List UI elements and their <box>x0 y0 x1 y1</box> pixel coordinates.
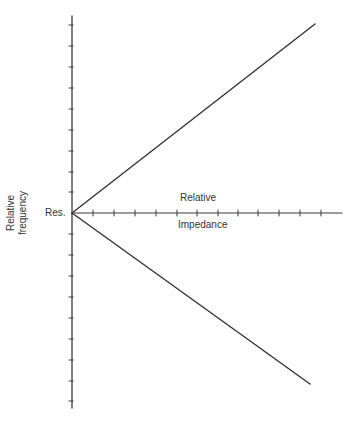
upper-diverging-line <box>72 24 315 213</box>
lower-diverging-line <box>72 213 310 384</box>
impedance-frequency-diagram: Relative frequency Res. Relative Impedan… <box>0 0 355 424</box>
origin-label-res: Res. <box>45 208 66 218</box>
y-axis-label-line1: Relative <box>5 173 17 253</box>
axes <box>72 16 342 408</box>
x-axis-label-impedance: Impedance <box>178 220 227 230</box>
y-axis-label-line2: frequency <box>17 173 29 253</box>
y-axis-label: Relative frequency <box>5 173 31 253</box>
x-axis-label-relative: Relative <box>180 193 216 203</box>
diverging-lines <box>72 24 315 384</box>
